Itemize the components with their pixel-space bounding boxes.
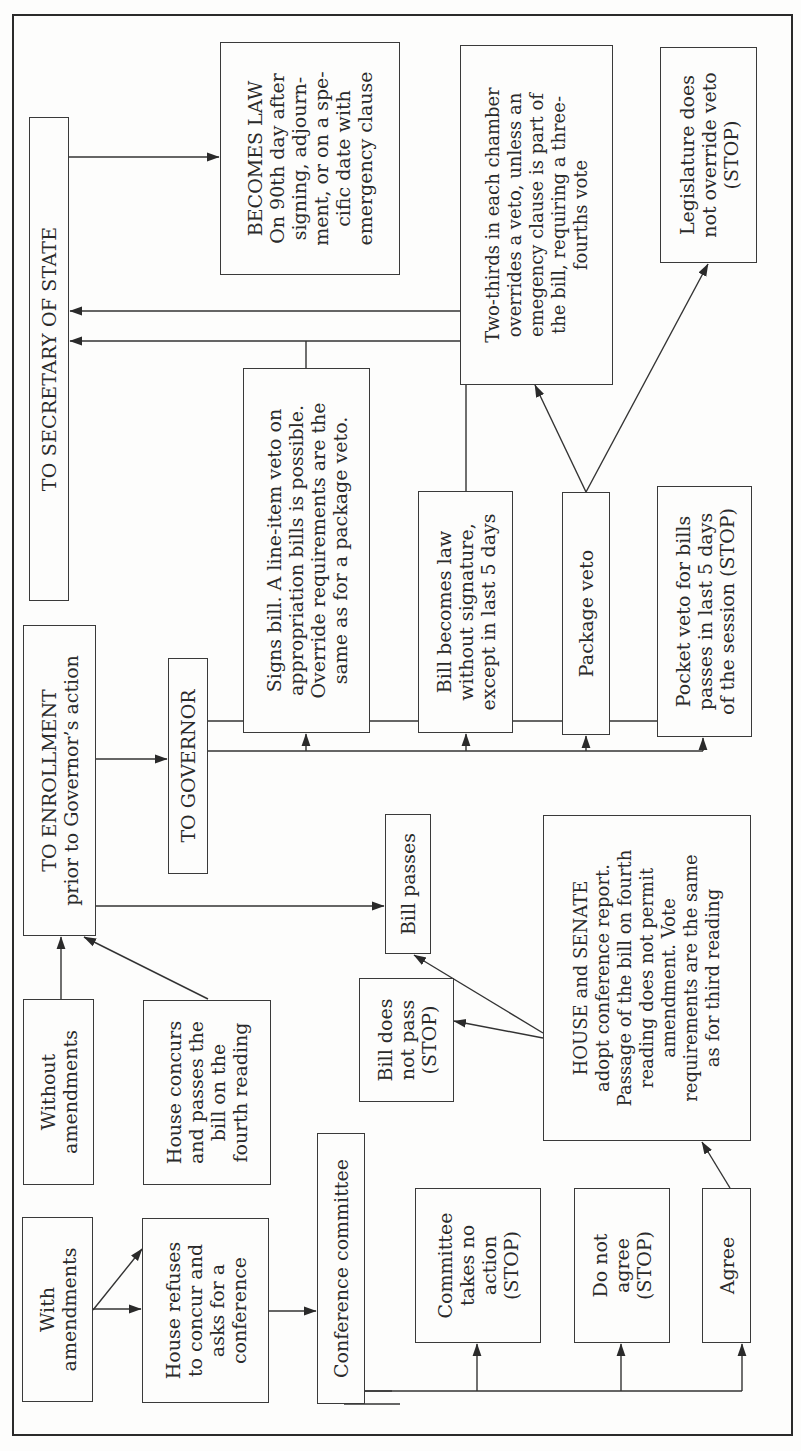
- node-legislature-no-override: Legislature does not override veto (STOP…: [660, 47, 757, 263]
- node-without-amendments: Without amendments: [23, 999, 94, 1185]
- node-signs-bill: Signs bill. A line-item veto on appropri…: [243, 368, 370, 733]
- node-agree: Agree: [702, 1188, 751, 1343]
- node-bill-does-not-pass: Bill does not pass (STOP): [359, 978, 454, 1102]
- node-committee-no-action: Committee takes no action (STOP): [415, 1188, 541, 1343]
- node-with-amendments: With amendments: [22, 1217, 93, 1402]
- node-to-enrollment: TO ENROLLMENT prior to Governor’s action: [23, 625, 96, 936]
- node-house-refuses: House refuses to concur and asks for a c…: [142, 1218, 269, 1403]
- node-two-thirds-override: Two-thirds in each chamber overrides a v…: [460, 45, 613, 385]
- node-bill-passes: Bill passes: [385, 814, 431, 954]
- node-house-concurs: House concurs and passes the bill on the…: [143, 1000, 271, 1185]
- node-do-not-agree: Do not agree (STOP): [574, 1188, 670, 1343]
- node-to-governor: TO GOVERNOR: [168, 658, 208, 874]
- node-package-veto: Package veto: [562, 492, 610, 735]
- node-law-without-signature: Bill becomes law without signature, exce…: [418, 491, 513, 733]
- node-becomes-law: BECOMES LAW On 90th day after signing, a…: [220, 42, 400, 275]
- node-house-senate-adopt: HOUSE and SENATE adopt conference report…: [543, 815, 751, 1141]
- legislative-process-flowchart: TO SECRETARY OF STATE BECOMES LAW On 90t…: [0, 0, 801, 1451]
- node-conference-committee: Conference committee: [317, 1133, 365, 1404]
- node-pocket-veto: Pocket veto for bills passes in last 5 d…: [657, 486, 752, 737]
- node-to-secretary-of-state: TO SECRETARY OF STATE: [29, 117, 69, 601]
